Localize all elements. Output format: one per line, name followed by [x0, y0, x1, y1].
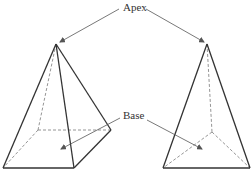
- square-pyramid: [3, 44, 111, 168]
- base-arrow-right: [147, 120, 202, 149]
- triangular-pyramid-hidden-edges: [163, 44, 250, 168]
- square-pyramid-hidden-edges: [3, 44, 111, 168]
- apex-label: Apex: [123, 2, 147, 13]
- apex-arrow-left: [60, 9, 119, 42]
- square-pyramid-visible-edges: [3, 44, 111, 168]
- diagram-canvas: [0, 0, 251, 185]
- base-arrows: [61, 118, 202, 149]
- base-arrow-left: [61, 118, 120, 149]
- apex-arrows: [60, 9, 204, 42]
- triangular-pyramid: [163, 44, 250, 168]
- pyramids-diagram: Apex Base: [0, 0, 251, 185]
- base-label: Base: [123, 110, 144, 121]
- apex-arrow-right: [146, 9, 204, 42]
- triangular-pyramid-visible-edges: [163, 44, 250, 168]
